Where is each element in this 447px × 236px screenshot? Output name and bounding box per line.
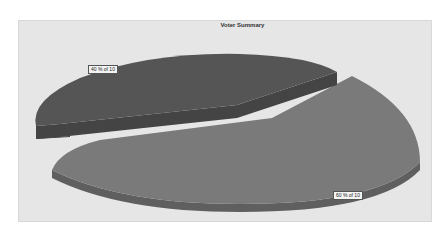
data-label-40: 40 % of 10 — [88, 65, 118, 74]
pie-chart — [0, 0, 447, 236]
data-label-60: 60 % of 10 — [333, 191, 363, 200]
